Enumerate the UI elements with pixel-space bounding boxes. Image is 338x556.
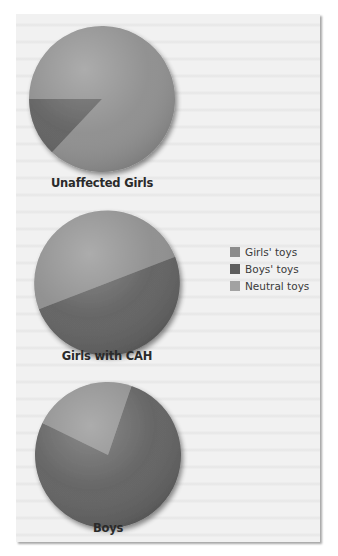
pie-unaffected-girls xyxy=(29,26,175,172)
legend-label-girls-toys: Girls' toys xyxy=(245,246,297,258)
legend-swatch-neutral-toys xyxy=(230,281,240,291)
legend-label-neutral-toys: Neutral toys xyxy=(245,280,309,292)
legend: Girls' toys Boys' toys Neutral toys xyxy=(230,243,309,294)
pie-label-boys: Boys xyxy=(28,521,188,535)
legend-swatch-boys-toys xyxy=(230,264,240,274)
pie-shading xyxy=(35,382,181,528)
pie-boys xyxy=(35,382,181,528)
legend-item-boys-toys: Boys' toys xyxy=(230,260,309,277)
pie-label-unaffected-girls: Unaffected Girls xyxy=(22,176,182,190)
pie-shading xyxy=(34,210,180,356)
legend-label-boys-toys: Boys' toys xyxy=(245,263,299,275)
pie-label-girls-with-cah: Girls with CAH xyxy=(27,349,187,363)
pie-shading xyxy=(29,26,175,172)
pie-girls-with-cah xyxy=(34,210,180,356)
legend-item-girls-toys: Girls' toys xyxy=(230,243,309,260)
legend-swatch-girls-toys xyxy=(230,247,240,257)
legend-item-neutral-toys: Neutral toys xyxy=(230,277,309,294)
